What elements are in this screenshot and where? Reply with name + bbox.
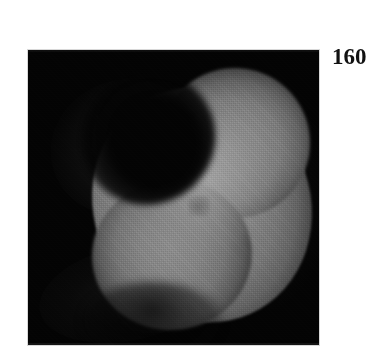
specimen-center-speck (188, 196, 210, 216)
figure-root: 160 (0, 0, 377, 363)
specimen (28, 50, 319, 345)
image-panel (28, 50, 319, 345)
frame-number-label: 160 (332, 45, 367, 68)
